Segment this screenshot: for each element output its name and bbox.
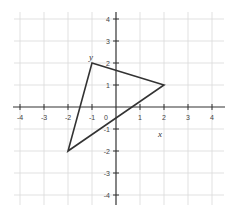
x-tick-label: -3 xyxy=(41,114,47,121)
y-tick-label: 2 xyxy=(106,60,110,67)
coordinate-plane: -4 -3 -2 -1 0 1 2 3 4 4 3 2 1 -1 -2 -3 -… xyxy=(0,0,239,217)
y-tick-label: -3 xyxy=(104,170,110,177)
y-tick-label: 3 xyxy=(106,38,110,45)
x-tick-label: 2 xyxy=(162,114,166,121)
x-tick-label: -1 xyxy=(89,114,95,121)
y-tick-label: -2 xyxy=(104,148,110,155)
y-tick-label: 4 xyxy=(106,16,110,23)
x-tick-label: 1 xyxy=(138,114,142,121)
y-tick-label: -4 xyxy=(104,192,110,199)
x-tick-label: -2 xyxy=(65,114,71,121)
y-tick-label: -1 xyxy=(104,126,110,133)
x-tick-label: 4 xyxy=(210,114,214,121)
vertex-label-x: x xyxy=(157,129,162,139)
origin-label: 0 xyxy=(104,114,108,121)
x-tick-label: 3 xyxy=(186,114,190,121)
vertex-label-y: y xyxy=(88,52,93,62)
x-tick-label: -4 xyxy=(17,114,23,121)
y-tick-label: 1 xyxy=(106,82,110,89)
